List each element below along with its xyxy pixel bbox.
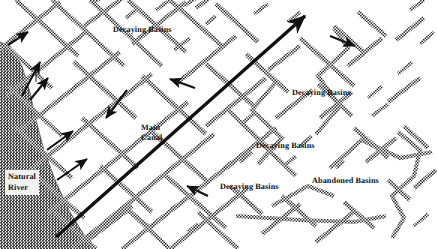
- label-decaying-basins-mid: Decaying Basins: [256, 141, 315, 151]
- canal-network-layer: [0, 0, 437, 249]
- label-decaying-basins-right: Decaying Basins: [292, 88, 351, 98]
- label-abandoned-basins: Abandoned Basins: [312, 176, 379, 186]
- label-decaying-basins-lower: Decaying Basins: [220, 182, 279, 192]
- canal-spines: [88, 28, 432, 240]
- label-natural-river: Natural River: [5, 170, 39, 195]
- irrigation-canal-network-figure: Decaying Basins Decaying Basins Decaying…: [0, 0, 437, 249]
- label-decaying-basins-top: Decaying Basins: [113, 25, 172, 35]
- label-main-canal: Main Canal: [141, 123, 162, 142]
